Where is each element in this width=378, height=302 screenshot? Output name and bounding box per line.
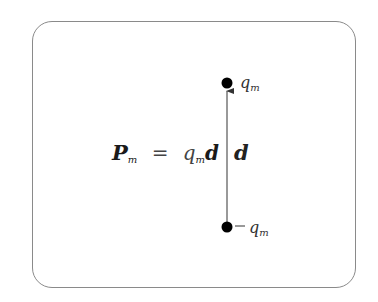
charge-symbol: q	[183, 141, 196, 165]
vector-symbol: d	[205, 141, 219, 165]
positive-charge-subscript: m	[250, 82, 259, 93]
negative-charge-label: qm	[237, 218, 269, 238]
moment-subscript: m	[128, 154, 137, 165]
charge-subscript: m	[196, 154, 205, 165]
positive-charge-symbol: q	[240, 73, 250, 92]
negative-charge-symbol: q	[249, 218, 259, 237]
vector-label: d	[234, 140, 249, 165]
negative-charge-subscript: m	[259, 227, 268, 238]
positive-charge-dot	[222, 78, 233, 89]
moment-symbol: P	[112, 140, 128, 165]
negative-charge-dot	[222, 222, 233, 233]
equals-sign: =	[152, 141, 169, 165]
dipole-moment-equation: Pm = qmd	[112, 140, 219, 165]
positive-charge-label: qm	[240, 73, 260, 93]
